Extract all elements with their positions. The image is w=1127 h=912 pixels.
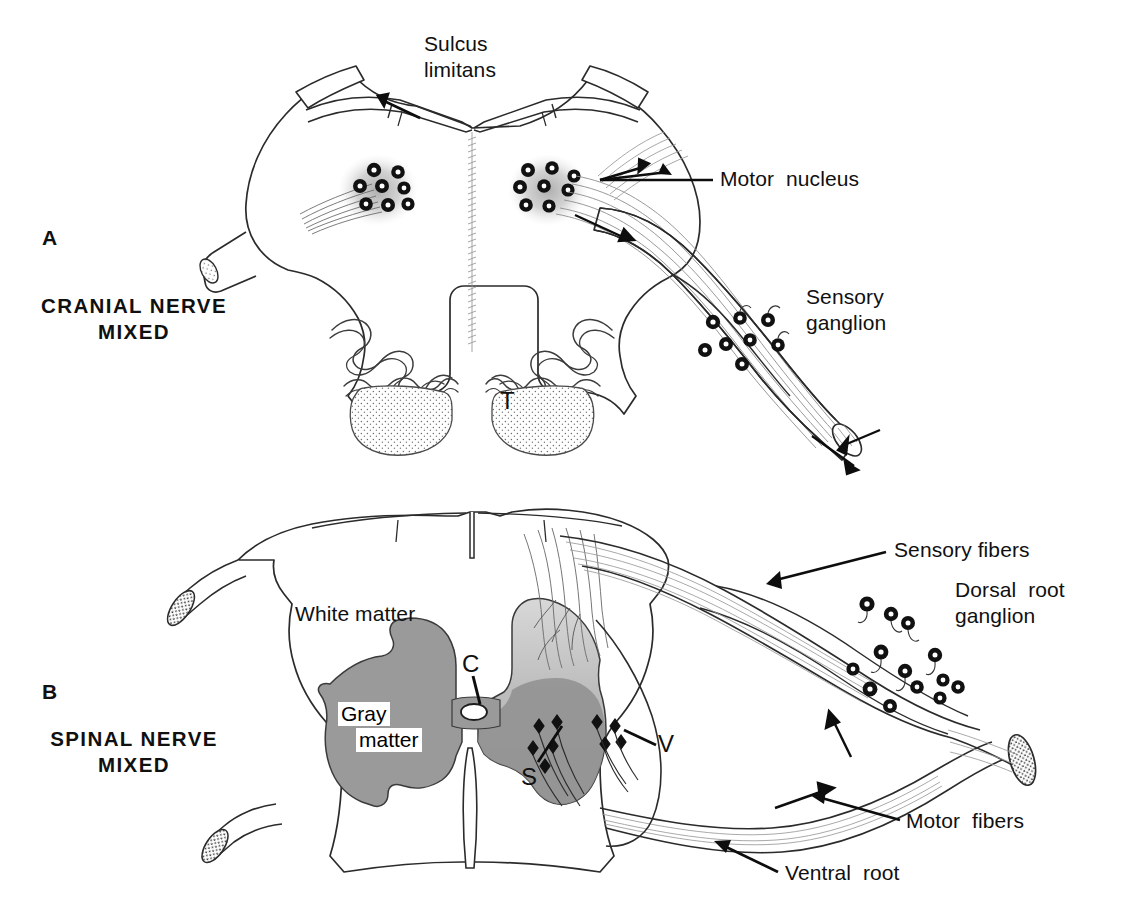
pyramid-label-t: T [500,387,515,415]
panel-b-caption-line1: SPINAL NERVE [30,727,238,751]
sensory-neuron-label-s: S [521,763,537,791]
v-leader [624,730,656,745]
panel-b-caption-line2: MIXED [30,753,238,777]
sensory-ganglion-label-line1: Sensory [806,285,884,310]
sensory-fibers-label: Sensory fibers [894,538,1030,563]
sulcus-limitans-label-line1: Sulcus [424,32,488,57]
panel-a-caption-line2: MIXED [30,320,238,344]
dorsal-median-sulcus [470,512,474,558]
motor-fibers-leader [818,797,900,820]
dorsal-root-ganglion-label-line2: ganglion [955,604,1035,629]
gray-matter-label-line2: matter [356,728,422,752]
spinal-nerve-cut-face [1003,732,1040,789]
gray-matter-label-line1: Gray [338,702,390,726]
panel-a-illustration [196,66,880,474]
ventral-root-leader [722,845,778,872]
central-canal [461,704,487,720]
motor-fibers-label: Motor fibers [906,809,1024,834]
sulcus-limitans-label-line2: limitans [424,58,496,83]
panel-b-letter: B [42,680,57,705]
ventral-median-fissure [463,748,477,868]
panel-a-caption-line1: CRANIAL NERVE [30,294,238,318]
sensory-fibers-arrowhead [766,571,782,589]
motor-nucleus-label: Motor nucleus [720,167,859,192]
sensory-fibers-leader [772,552,886,581]
gray-matter-label: Gray matter [338,702,422,752]
sensory-direction-arrow [826,711,851,757]
anatomy-figure: A CRANIAL NERVE MIXED Sulcus limitans Mo… [0,0,1127,912]
ventral-root-sheath-bottom [606,760,1002,853]
panel-a-letter: A [42,226,57,251]
pyramid-left [350,386,452,455]
spinal-nerve-trunk-striations [948,730,1016,772]
ventral-root-striations [602,776,942,845]
dorsal-root-ganglion-label-line1: Dorsal root [955,578,1065,603]
sensory-ganglion-label-line2: ganglion [806,311,886,336]
ventral-root-label: Ventral root [785,861,900,886]
central-canal-label-c: C [462,650,479,678]
ventral-neuron-label-v: V [658,730,674,758]
white-matter-label: White matter [295,602,415,627]
